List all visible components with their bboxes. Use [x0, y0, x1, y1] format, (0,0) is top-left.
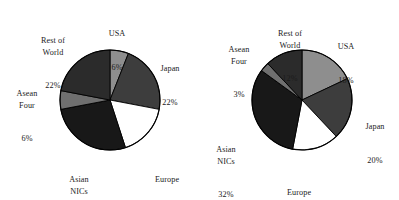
- right-label-asean-four: Asean Four 3%: [214, 22, 264, 123]
- left-label-japan-name: Japan: [146, 63, 194, 74]
- right-label-japan-name: Japan: [352, 121, 398, 132]
- right-label-asean-four-name: Asean Four: [214, 44, 264, 66]
- pie-chart-left: USA 6% Rest of World 22% Japan 22% Asean…: [0, 0, 199, 200]
- right-label-europe-name: Europe: [272, 187, 326, 198]
- right-label-asian-nics-name: Asian NICs: [201, 144, 251, 166]
- left-label-japan-value: 22%: [146, 97, 194, 108]
- left-label-rest-of-world-name: Rest of World: [25, 35, 81, 57]
- pie-chart-right: Rest of World 12% Asean Four 3% USA 18% …: [200, 0, 399, 200]
- right-label-asean-four-value: 3%: [214, 89, 264, 100]
- left-label-asian-nics-name: Asian NICs: [54, 174, 104, 196]
- left-label-europe: Europe 17%: [140, 152, 194, 200]
- right-label-europe: Europe 15%: [272, 165, 326, 200]
- left-label-europe-name: Europe: [140, 174, 194, 185]
- right-label-usa-value: 18%: [323, 75, 369, 86]
- pie-chart-figure: USA 6% Rest of World 22% Japan 22% Asean…: [0, 0, 399, 200]
- right-label-usa: USA 18%: [323, 19, 369, 109]
- right-label-rest-of-world: Rest of World 12%: [262, 6, 318, 107]
- left-label-asean-four-name: Asean Four: [2, 88, 52, 110]
- right-label-japan-value: 20%: [352, 155, 398, 166]
- right-label-rest-of-world-value: 12%: [262, 73, 318, 84]
- left-label-asean-four: Asean Four 6%: [2, 66, 52, 167]
- left-label-asean-four-value: 6%: [2, 133, 52, 144]
- left-label-usa-name: USA: [95, 28, 139, 39]
- right-label-asian-nics-value: 32%: [201, 189, 251, 200]
- right-label-usa-name: USA: [323, 41, 369, 52]
- left-label-asian-nics: Asian NICs 27%: [54, 152, 104, 200]
- left-label-usa: USA 6%: [95, 6, 139, 96]
- right-label-rest-of-world-name: Rest of World: [262, 28, 318, 50]
- left-label-japan: Japan 22%: [146, 41, 194, 131]
- left-label-usa-value: 6%: [95, 62, 139, 73]
- right-label-asian-nics: Asian NICs 32%: [201, 122, 251, 200]
- right-label-japan: Japan 20%: [352, 99, 398, 189]
